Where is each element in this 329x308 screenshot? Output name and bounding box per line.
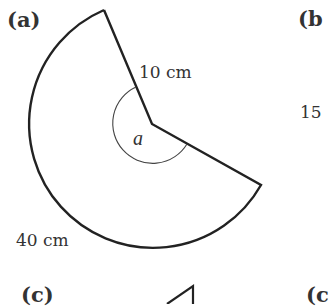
- outer-arc-label: 40 cm: [16, 232, 69, 249]
- part-a-label: (a): [7, 9, 40, 30]
- sector-outline: [29, 10, 261, 248]
- part-d-label: (c: [306, 284, 329, 305]
- angle-arc: [113, 87, 187, 163]
- part-b-value: 15: [300, 104, 322, 121]
- angle-label: a: [133, 128, 143, 148]
- part-b-label: (b: [298, 8, 323, 29]
- triangle-partial: [167, 286, 193, 304]
- inner-radius-label: 10 cm: [139, 64, 192, 81]
- part-c-label: (c): [21, 284, 54, 305]
